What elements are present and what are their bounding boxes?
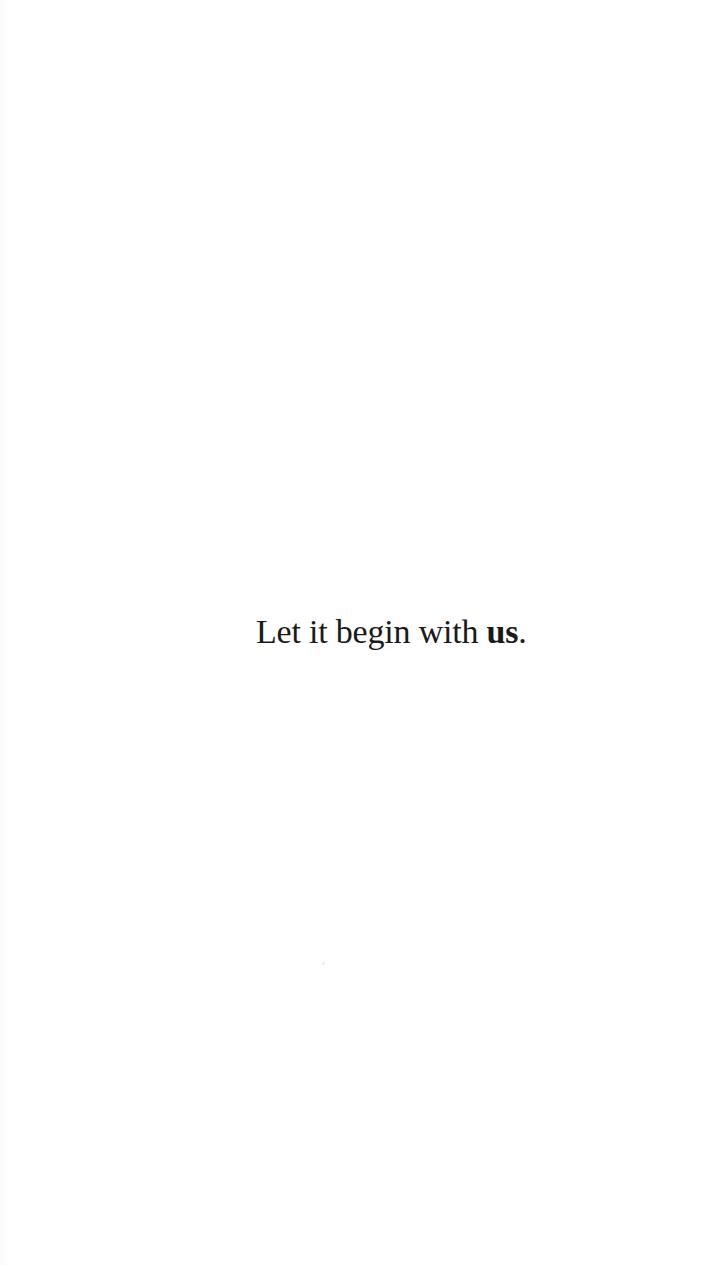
tagline: Let it begin with us.	[256, 609, 527, 655]
tagline-suffix: .	[518, 613, 526, 650]
decorative-speck	[322, 962, 325, 965]
tagline-emphasis: us	[487, 613, 519, 650]
tagline-prefix: Let it begin with	[256, 613, 487, 650]
